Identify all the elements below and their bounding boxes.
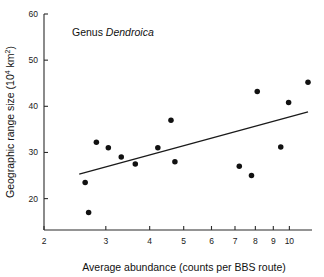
data-point	[94, 140, 100, 146]
x-tick-label: 3	[103, 236, 108, 246]
regression-line	[79, 112, 308, 174]
annotation-prefix: Genus	[72, 26, 106, 38]
x-tick-label: 8	[253, 236, 258, 246]
data-point	[305, 80, 311, 86]
x-tick-label: 5	[181, 236, 186, 246]
data-point	[86, 210, 92, 216]
genus-annotation: Genus Dendroica	[72, 26, 154, 38]
data-point	[155, 145, 161, 151]
data-point	[133, 161, 139, 167]
x-axis-tick-labels: 2345678910	[42, 236, 295, 246]
data-point	[172, 159, 178, 165]
trend-line	[79, 112, 308, 174]
y-tick-label: 60	[29, 9, 39, 19]
data-point	[278, 144, 284, 150]
data-point	[82, 180, 88, 186]
x-tick-label: 2	[42, 236, 47, 246]
data-point	[286, 100, 292, 106]
x-axis-ticks	[44, 226, 289, 230]
y-tick-label: 40	[29, 101, 39, 111]
y-tick-label: 30	[29, 147, 39, 157]
data-point	[106, 145, 112, 151]
data-point	[249, 173, 255, 179]
y-axis-tick-labels: 2030405060	[29, 9, 39, 204]
data-point	[119, 154, 125, 160]
x-tick-label: 6	[209, 236, 214, 246]
y-tick-label: 20	[29, 194, 39, 204]
y-tick-label: 50	[29, 55, 39, 65]
x-axis-title: Average abundance (counts per BBS route)	[82, 261, 286, 273]
data-points	[82, 80, 310, 216]
data-point	[254, 89, 260, 95]
data-point	[237, 164, 243, 170]
scatter-plot: 2030405060 2345678910 Genus Dendroica Av…	[0, 0, 324, 277]
data-point	[168, 117, 174, 123]
x-tick-label: 7	[233, 236, 238, 246]
figure-container: 2030405060 2345678910 Genus Dendroica Av…	[0, 0, 324, 277]
annotation-genus-name: Dendroica	[106, 26, 154, 38]
y-axis-ticks	[44, 14, 48, 199]
x-tick-label: 4	[147, 236, 152, 246]
x-tick-label: 10	[285, 236, 295, 246]
y-axis-title: Geographic range size (104 km2)	[4, 46, 16, 198]
x-tick-label: 9	[271, 236, 276, 246]
